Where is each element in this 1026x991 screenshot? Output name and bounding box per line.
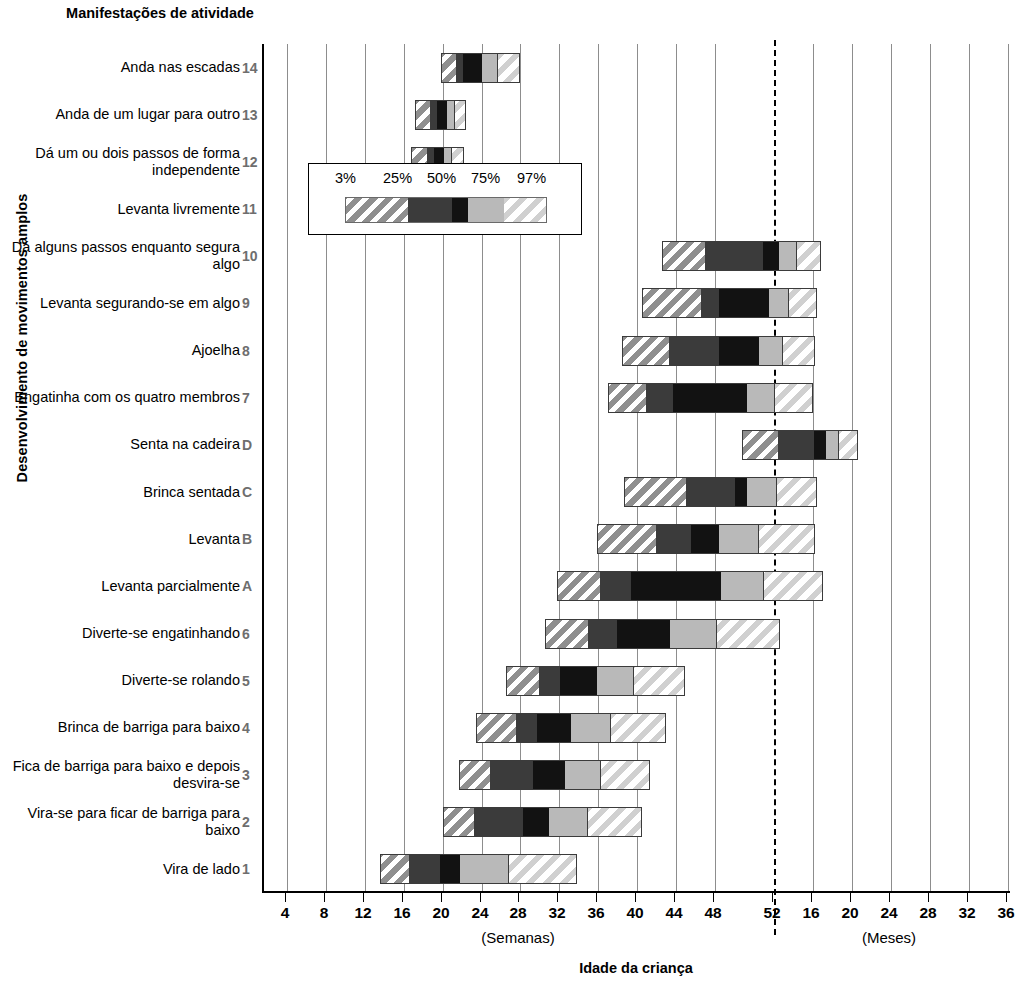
segment-p75 <box>670 620 716 648</box>
legend-swatch-p97 <box>504 198 546 222</box>
segment-p50 <box>719 289 769 317</box>
legend-swatch-p3 <box>346 198 408 222</box>
row-code: 3 <box>242 752 262 799</box>
row-code: A <box>242 563 262 610</box>
row-code: 12 <box>242 138 262 185</box>
legend-label: 75% <box>471 170 500 186</box>
segment-p97 <box>839 431 856 459</box>
x-tick <box>1006 893 1007 902</box>
percentile-bar <box>443 807 642 837</box>
chart-row: Brinca de barriga para baixo4 <box>264 704 1010 751</box>
percentile-bar <box>742 430 858 460</box>
x-tick <box>285 893 286 902</box>
row-label: Diverte-se engatinhando <box>10 610 240 657</box>
x-tick-label: 28 <box>498 904 538 922</box>
row-label: Diverte-se rolando <box>10 657 240 704</box>
row-label: Ajoelha <box>10 327 240 374</box>
x-tick-label: 16 <box>382 904 422 922</box>
legend-swatch-p25 <box>408 198 452 222</box>
segment-p50 <box>533 761 565 789</box>
row-label: Levanta parcialmente <box>10 563 240 610</box>
segment-p97 <box>764 572 822 600</box>
segment-p3 <box>444 808 474 836</box>
row-code: 7 <box>242 374 262 421</box>
segment-p3 <box>609 384 647 412</box>
segment-p3 <box>625 478 687 506</box>
x-tick-label: 32 <box>947 904 987 922</box>
x-tick-label: 8 <box>304 904 344 922</box>
percentile-bar <box>557 571 823 601</box>
segment-p75 <box>826 431 840 459</box>
segment-p50 <box>631 572 721 600</box>
x-tick <box>811 893 812 902</box>
chart-row: Ajoelha8 <box>264 327 1010 374</box>
segment-p3 <box>477 714 517 742</box>
segment-p3 <box>643 289 701 317</box>
segment-p25 <box>588 620 617 648</box>
segment-p75 <box>549 808 588 836</box>
segment-p75 <box>719 525 759 553</box>
row-code: 2 <box>242 799 262 846</box>
x-tick <box>518 893 519 902</box>
legend-swatch-p75 <box>468 198 504 222</box>
segment-p97 <box>455 101 465 129</box>
legend-swatch-p50 <box>452 198 468 222</box>
row-label: Dá um ou dois passos de forma independen… <box>10 138 240 185</box>
segment-p50 <box>463 54 481 82</box>
row-label: Senta na cadeira <box>10 421 240 468</box>
segment-p97 <box>611 714 665 742</box>
row-label: Levanta segurando-se em algo <box>10 280 240 327</box>
x-unit-months: (Meses) <box>809 929 969 946</box>
segment-p97 <box>717 620 779 648</box>
chart-row: Levanta parcialmenteA <box>264 563 1010 610</box>
x-tick-label: 44 <box>654 904 694 922</box>
growth-chart: Desenvolvimento de movimentos amplos Man… <box>0 0 1026 991</box>
segment-p97 <box>634 667 683 695</box>
segment-p25 <box>646 384 673 412</box>
row-code: B <box>242 516 262 563</box>
percentile-bar <box>459 760 650 790</box>
x-tick-label: 20 <box>830 904 870 922</box>
segment-p97 <box>797 242 820 270</box>
segment-p25 <box>701 289 720 317</box>
segment-p75 <box>779 242 797 270</box>
segment-p3 <box>460 761 490 789</box>
legend-label: 3% <box>335 170 356 186</box>
segment-p97 <box>777 478 816 506</box>
segment-p75 <box>747 478 776 506</box>
segment-p50 <box>719 337 759 365</box>
chart-row: Fica de barriga para baixo e depois desv… <box>264 752 1010 799</box>
segment-p97 <box>498 54 519 82</box>
segment-p50 <box>735 478 747 506</box>
chart-row: Anda de um lugar para outro13 <box>264 91 1010 138</box>
percentile-bar <box>642 288 817 318</box>
x-tick-label: 40 <box>615 904 655 922</box>
x-tick-label: 52 <box>752 904 792 922</box>
x-tick <box>772 893 773 902</box>
segment-p3 <box>558 572 600 600</box>
segment-p75 <box>759 337 783 365</box>
segment-p3 <box>598 525 656 553</box>
x-tick <box>713 893 714 902</box>
x-tick-label: 28 <box>908 904 948 922</box>
x-axis-title: Idade da criança <box>262 960 1010 976</box>
row-code: 9 <box>242 280 262 327</box>
segment-p3 <box>663 242 705 270</box>
percentile-bar <box>441 53 520 83</box>
legend-swatch-bar <box>345 197 547 223</box>
segment-p50 <box>617 620 671 648</box>
row-label: Engatinha com os quatro membros <box>10 374 240 421</box>
chart-row: Engatinha com os quatro membros7 <box>264 374 1010 421</box>
percentile-bar <box>622 336 815 366</box>
legend: 3%25%50%75%97% <box>308 163 582 235</box>
row-label: Dá alguns passos enquanto segura algo <box>10 233 240 280</box>
percentile-bar <box>608 383 813 413</box>
row-label: Fica de barriga para baixo e depois desv… <box>10 752 240 799</box>
x-tick <box>596 893 597 902</box>
segment-p97 <box>588 808 641 836</box>
row-label: Brinca sentada <box>10 469 240 516</box>
row-code: 10 <box>242 233 262 280</box>
segment-p3 <box>381 855 409 883</box>
segment-p25 <box>705 242 763 270</box>
x-tick-label: 24 <box>460 904 500 922</box>
